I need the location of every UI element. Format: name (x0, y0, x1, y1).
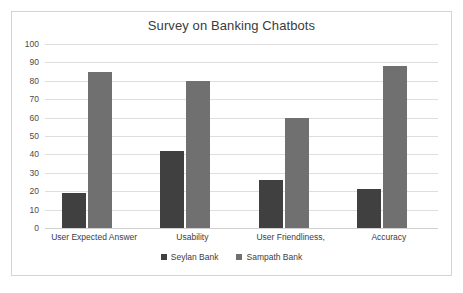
x-axis-label: User Expected Answer (51, 232, 137, 242)
bar[interactable] (88, 72, 112, 228)
x-axis-label: Usability (176, 232, 208, 242)
y-axis-tick-10: 10 (30, 205, 39, 215)
plot-area (45, 44, 438, 228)
chart-title: Survey on Banking Chatbots (12, 18, 451, 33)
bar[interactable] (160, 151, 184, 228)
bar-group (340, 44, 438, 228)
y-axis-tick-70: 70 (30, 94, 39, 104)
bar[interactable] (285, 118, 309, 228)
y-axis-tick-0: 0 (34, 223, 39, 233)
bar[interactable] (383, 66, 407, 228)
legend-swatch-icon (161, 254, 167, 260)
y-axis: 1009080706050403020100 (12, 44, 42, 228)
bar[interactable] (186, 81, 210, 228)
bar[interactable] (357, 189, 381, 228)
bar-group (45, 44, 143, 228)
y-axis-tick-100: 100 (25, 39, 39, 49)
legend-item[interactable]: Seylan Bank (161, 252, 219, 262)
y-axis-tick-40: 40 (30, 149, 39, 159)
x-axis-label: Accuracy (371, 232, 406, 242)
chart-frame: Survey on Banking Chatbots 1009080706050… (11, 11, 452, 276)
y-axis-tick-50: 50 (30, 131, 39, 141)
legend-label: Sampath Bank (246, 252, 302, 262)
x-axis: User Expected AnswerUsabilityUser Friend… (45, 232, 438, 248)
bar-group (242, 44, 340, 228)
gridline-0 (45, 228, 438, 229)
bar[interactable] (62, 193, 86, 228)
legend-swatch-icon (236, 254, 242, 260)
y-axis-tick-30: 30 (30, 168, 39, 178)
bar[interactable] (259, 180, 283, 228)
x-axis-label: User Friendliness, (256, 232, 325, 242)
bar-series-layer (45, 44, 438, 228)
y-axis-tick-80: 80 (30, 76, 39, 86)
bar-group (143, 44, 241, 228)
y-axis-tick-60: 60 (30, 113, 39, 123)
legend-label: Seylan Bank (171, 252, 219, 262)
chart-legend: Seylan BankSampath Bank (12, 252, 451, 262)
legend-item[interactable]: Sampath Bank (236, 252, 302, 262)
y-axis-tick-20: 20 (30, 186, 39, 196)
y-axis-tick-90: 90 (30, 57, 39, 67)
